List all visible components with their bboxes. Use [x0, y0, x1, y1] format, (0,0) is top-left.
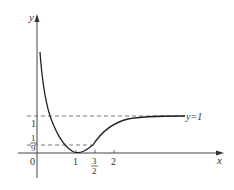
y-axis-arrow-icon	[35, 14, 40, 22]
y-tick-1: 1	[31, 118, 36, 129]
asymptote-label: y=1	[185, 111, 202, 122]
fraction-numerator: 1	[31, 133, 36, 143]
function-curve	[40, 52, 185, 153]
fraction-denominator: 9	[31, 143, 36, 153]
x-tick-2: 2	[111, 156, 116, 167]
fraction-numerator: 3	[92, 156, 97, 166]
fraction-denominator: 2	[92, 166, 97, 176]
x-axis-label: x	[216, 154, 222, 166]
function-graph: y x y=1 1 1 9 0 1 3 2 2	[0, 0, 234, 190]
x-axis	[18, 151, 224, 156]
origin-label: 0	[30, 156, 35, 167]
x-tick-three-halves: 3 2	[91, 156, 98, 176]
y-axis-label: y	[28, 11, 34, 23]
x-tick-1: 1	[73, 156, 78, 167]
y-tick-one-ninth: 1 9	[30, 133, 37, 153]
